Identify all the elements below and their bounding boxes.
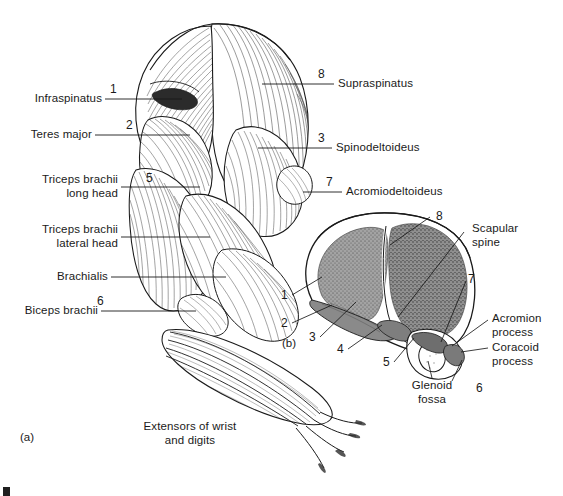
label-biceps-brachii: Biceps brachii [6,304,98,318]
panel-tag-b: (b) [282,337,296,349]
label-number-6: 6 [97,294,104,308]
panel-tag-a: (a) [20,431,34,443]
label-coracoid-process: Coracoid process [492,341,539,368]
label-number-5: 5 [146,171,153,185]
label-teres-major: Teres major [6,128,92,142]
label-b-number-8: 8 [436,209,443,223]
label-number-7: 7 [326,175,333,189]
label-b-number-1: 1 [281,288,288,302]
label-supraspinatus: Supraspinatus [338,77,413,91]
label-b-number-6: 6 [476,381,483,395]
label-number-2: 2 [126,118,133,132]
label-number-8: 8 [318,67,325,81]
leader-b-coracoid [461,348,488,352]
label-acromion-process: Acromion process [492,312,542,339]
label-b-number-7: 7 [468,272,475,286]
muscle-extensors-wrist-digits [162,330,366,473]
label-extensors-wrist-digits: Extensors of wrist and digits [125,420,255,447]
muscle-acromiodeltoideus [277,166,312,204]
label-b-number-2: 2 [281,316,288,330]
label-b-number-4: 4 [337,342,344,356]
label-number-1: 1 [110,82,117,96]
label-b-number-5: 5 [383,355,390,369]
label-acromiodeltoideus: Acromiodeltoideus [346,185,443,199]
label-infraspinatus: Infraspinatus [6,92,102,106]
figure-root: Infraspinatus 1 Teres major 2 Triceps br… [0,0,563,496]
label-number-3: 3 [318,131,325,145]
label-spinodeltoideus: Spinodeltoideus [336,141,420,155]
label-brachialis: Brachialis [6,270,108,284]
label-scapular-spine: Scapular spine [472,222,518,249]
label-glenoid-fossa: Glenoid fossa [396,379,468,406]
label-b-number-3: 3 [309,330,316,344]
label-triceps-brachii-long-head: Triceps brachii long head [6,173,118,200]
panel-b-drawing [306,213,475,379]
page-corner-mark [3,487,10,496]
label-triceps-brachii-lateral-head: Triceps brachii lateral head [6,223,118,250]
